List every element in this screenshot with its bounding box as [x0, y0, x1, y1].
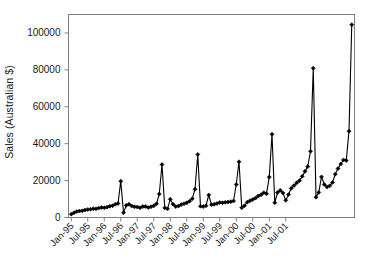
- x-tick-label-group: Jan-95Jul-95Jan-96Jul-96Jan-97Jul-97Jan-…: [47, 220, 290, 248]
- y-tick-label: 40000: [33, 138, 61, 149]
- y-tick-label-group: 020000400006000080000100000: [27, 27, 61, 223]
- y-tick-label: 20000: [33, 175, 61, 186]
- y-tick-label: 100000: [27, 27, 61, 38]
- sales-time-series-chart: Sales (Australian $) 0200004000060000800…: [0, 0, 372, 276]
- y-tick-label: 60000: [33, 101, 61, 112]
- x-tick-mark-group: [71, 218, 286, 222]
- y-tick-label: 0: [55, 212, 61, 223]
- y-tick-label: 80000: [33, 64, 61, 75]
- plot-area: 020000400006000080000100000 Jan-95Jul-95…: [0, 0, 372, 276]
- y-tick-mark-group: [65, 33, 69, 218]
